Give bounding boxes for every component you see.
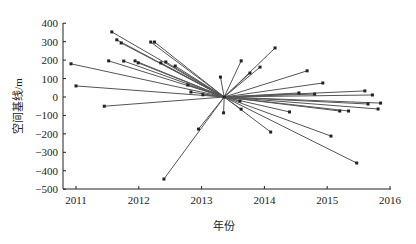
slave-point — [103, 105, 106, 108]
y-tick-label: −400 — [35, 165, 58, 177]
slave-point — [189, 91, 192, 94]
slave-point — [274, 46, 277, 49]
x-tick-label: 2015 — [316, 194, 339, 206]
slave-point — [269, 131, 272, 134]
baseline-line — [198, 97, 224, 129]
slave-point — [259, 66, 262, 69]
slave-point — [355, 162, 358, 165]
y-tick-label: 300 — [42, 36, 59, 48]
slave-point — [153, 41, 156, 44]
baseline-line — [224, 61, 241, 97]
baseline-chart: 4003002001000−100−200−300−400−500 201120… — [0, 0, 416, 244]
slave-point — [338, 110, 341, 113]
y-tick-label: −100 — [35, 109, 58, 121]
slave-point — [162, 178, 165, 181]
slave-point — [120, 41, 123, 44]
y-tick-label: −200 — [35, 128, 58, 140]
slave-point — [75, 84, 78, 87]
x-tick-label: 2013 — [191, 194, 214, 206]
slave-point — [115, 38, 118, 41]
x-tick-label: 2016 — [379, 194, 402, 206]
slave-point — [321, 81, 324, 84]
slave-point — [159, 61, 162, 64]
slave-point — [306, 69, 309, 72]
slave-point — [164, 60, 167, 63]
slave-point — [122, 60, 125, 63]
slave-point — [329, 135, 332, 138]
slave-point — [149, 41, 152, 44]
slave-point — [347, 110, 350, 113]
slave-point — [367, 103, 370, 106]
baseline-lines — [71, 32, 381, 179]
x-axis-title: 年份 — [213, 219, 235, 232]
y-tick-label: 400 — [42, 17, 59, 29]
x-axis: 201120122013201420152016 — [63, 186, 402, 206]
slave-point — [201, 93, 204, 96]
baseline-line — [175, 66, 224, 97]
y-tick-label: −500 — [35, 183, 58, 195]
y-axis: 4003002001000−100−200−300−400−500 — [35, 17, 66, 195]
baseline-line — [164, 97, 224, 179]
baseline-line — [224, 97, 225, 113]
x-tick-label: 2012 — [128, 194, 150, 206]
slave-point — [248, 72, 251, 75]
slave-point — [186, 84, 189, 87]
slave-point — [371, 93, 374, 96]
x-tick-label: 2014 — [253, 194, 276, 206]
x-tick-label: 2011 — [65, 194, 87, 206]
slave-point — [240, 59, 243, 62]
slave-point — [197, 128, 200, 131]
slave-point — [219, 76, 222, 79]
y-tick-label: 0 — [53, 91, 59, 103]
y-tick-label: 100 — [42, 73, 59, 85]
slave-point — [222, 111, 225, 114]
baseline-line — [224, 97, 357, 163]
y-axis-title: 空间基线/m — [11, 78, 24, 134]
slave-point — [379, 102, 382, 105]
slave-point — [288, 110, 291, 113]
baseline-line — [155, 42, 225, 97]
slave-point — [238, 100, 241, 103]
slave-point — [137, 61, 140, 64]
slave-point — [313, 93, 316, 96]
slave-point — [174, 65, 177, 68]
slave-point — [134, 59, 137, 62]
slave-point — [107, 59, 110, 62]
slave-point — [240, 108, 243, 111]
baseline-line — [104, 97, 224, 106]
master-point — [223, 96, 226, 99]
slave-point — [297, 91, 300, 94]
slave-point — [377, 107, 380, 110]
slave-point — [363, 89, 366, 92]
y-tick-label: 200 — [42, 54, 59, 66]
y-tick-label: −300 — [35, 146, 58, 158]
slave-point — [110, 30, 113, 33]
slave-point — [69, 62, 72, 65]
